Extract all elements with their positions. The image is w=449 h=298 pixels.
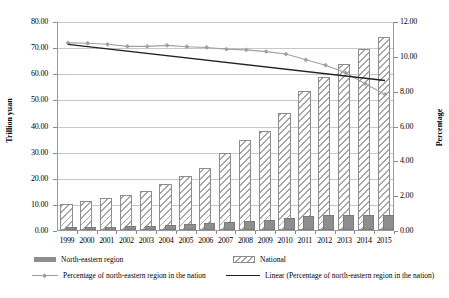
legend-label-linear-trend: Linear (Percentage of north-eastern regi… <box>265 272 434 280</box>
y-axis-right-tick-label: 2.00 <box>400 191 440 200</box>
y-axis-right-tick-label: 4.00 <box>400 156 440 165</box>
percentage-marker <box>204 45 209 50</box>
y-axis-left-tickmark <box>53 153 57 154</box>
legend-swatch-north-eastern-region <box>34 257 56 262</box>
y-axis-right-tickmark <box>394 196 398 197</box>
percentage-marker <box>323 63 328 68</box>
x-axis-tickmark <box>176 231 177 234</box>
y-axis-right-tick-label: 10.00 <box>400 52 440 61</box>
x-axis-tick-label: 2015 <box>372 236 396 245</box>
x-axis-tickmark <box>354 231 355 234</box>
x-axis-tickmark <box>77 231 78 234</box>
x-axis-tickmark <box>295 231 296 234</box>
x-axis-tickmark <box>216 231 217 234</box>
y-axis-right-tickmark <box>394 22 398 23</box>
x-axis-tickmark <box>116 231 117 234</box>
y-axis-left-tickmark <box>53 74 57 75</box>
percentage-marker <box>264 49 269 54</box>
percentage-marker <box>184 44 189 49</box>
percentage-marker <box>145 44 150 49</box>
y-axis-left-tickmark <box>53 127 57 128</box>
y-axis-right-tickmark <box>394 127 398 128</box>
legend-swatch-national <box>233 256 255 263</box>
legend-item-national: National <box>233 256 286 264</box>
y-axis-left-tickmark <box>53 48 57 49</box>
percentage-marker <box>343 70 348 75</box>
y-axis-right-tickmark <box>394 57 398 58</box>
y-axis-right-tick-label: 6.00 <box>400 122 440 131</box>
percentage-marker <box>244 47 249 52</box>
legend-item-north-eastern-region: North-eastern region <box>34 256 123 264</box>
y-axis-left-tick-label: 0.00 <box>10 226 48 235</box>
percentage-marker <box>224 47 229 52</box>
percentage-marker <box>363 81 368 86</box>
y-axis-right-tick-label: 8.00 <box>400 87 440 96</box>
y-axis-left-tick-label: 20.00 <box>10 174 48 183</box>
percentage-marker <box>85 41 90 46</box>
y-axis-left-tick-label: 40.00 <box>10 122 48 131</box>
percentage-marker <box>105 42 110 47</box>
x-axis-tickmark <box>394 231 395 234</box>
legend-item-linear-trend: Linear (Percentage of north-eastern regi… <box>226 272 434 280</box>
legend-label-north-eastern-region: North-eastern region <box>61 256 123 264</box>
y-axis-left-tick-label: 50.00 <box>10 95 48 104</box>
y-axis-left-tick-label: 10.00 <box>10 200 48 209</box>
y-axis-left-tickmark <box>53 179 57 180</box>
y-axis-left-tickmark <box>53 22 57 23</box>
y-axis-right-tickmark <box>394 92 398 93</box>
x-axis-tickmark <box>196 231 197 234</box>
percentage-marker <box>165 43 170 48</box>
y-axis-right-tickmark <box>394 161 398 162</box>
y-axis-left-tickmark <box>53 205 57 206</box>
x-axis-tickmark <box>136 231 137 234</box>
x-axis-tickmark <box>235 231 236 234</box>
chart-legend: North-eastern region National Percentage… <box>34 255 434 285</box>
y-axis-left-tick-label: 30.00 <box>10 148 48 157</box>
x-axis-tickmark <box>315 231 316 234</box>
y-axis-right-tick-label: 12.00 <box>400 17 440 26</box>
x-axis-tickmark <box>156 231 157 234</box>
x-axis-tickmark <box>97 231 98 234</box>
y-axis-left-tickmark <box>53 231 57 232</box>
percentage-marker <box>125 44 130 49</box>
x-axis-tickmark <box>374 231 375 234</box>
legend-label-national: National <box>260 256 286 264</box>
chart-container: Trillion yuan Percentage 0.0010.0020.003… <box>0 0 449 298</box>
percentage-marker <box>284 52 289 57</box>
y-axis-left-tick-label: 70.00 <box>10 43 48 52</box>
y-axis-left-tick-label: 60.00 <box>10 69 48 78</box>
legend-swatch-linear-trend <box>226 272 260 279</box>
x-axis-tickmark <box>335 231 336 234</box>
line-series-layer <box>58 22 395 231</box>
plot-area <box>57 22 394 231</box>
legend-swatch-percentage <box>32 272 58 279</box>
x-axis-tickmark <box>275 231 276 234</box>
y-axis-left-tick-label: 80.00 <box>10 17 48 26</box>
y-axis-right-tick-label: 0.00 <box>400 226 440 235</box>
percentage-marker <box>303 57 308 62</box>
legend-label-percentage: Percentage of north-eastern region in th… <box>63 272 206 280</box>
percentage-marker <box>383 92 388 97</box>
legend-item-percentage: Percentage of north-eastern region in th… <box>32 272 206 280</box>
x-axis-tickmark <box>255 231 256 234</box>
y-axis-left-tickmark <box>53 100 57 101</box>
